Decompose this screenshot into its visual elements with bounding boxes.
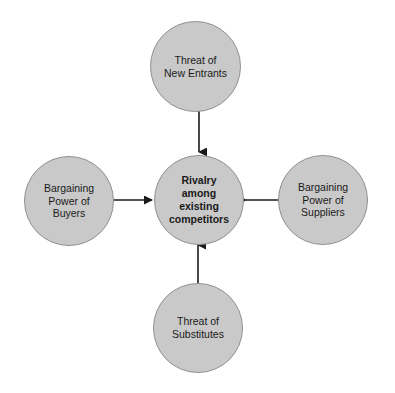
- node-bargaining-power-of-buyers[interactable]: Bargaining Power of Buyers: [24, 156, 114, 246]
- node-label-threat-of-new-entrants: Threat of New Entrants: [160, 54, 231, 80]
- node-threat-of-new-entrants[interactable]: Threat of New Entrants: [150, 21, 241, 112]
- node-rivalry-among-existing-competitors[interactable]: Rivalry among existing competitors: [154, 155, 244, 245]
- node-label-rivalry-among-existing-competitors: Rivalry among existing competitors: [165, 174, 233, 225]
- node-label-bargaining-power-of-buyers: Bargaining Power of Buyers: [40, 182, 98, 220]
- five-forces-diagram: Threat of New Entrants Bargaining Power …: [0, 0, 395, 393]
- node-threat-of-substitutes[interactable]: Threat of Substitutes: [153, 283, 243, 373]
- node-bargaining-power-of-suppliers[interactable]: Bargaining Power of Suppliers: [278, 155, 368, 245]
- node-label-threat-of-substitutes: Threat of Substitutes: [168, 315, 228, 341]
- node-label-bargaining-power-of-suppliers: Bargaining Power of Suppliers: [294, 181, 352, 219]
